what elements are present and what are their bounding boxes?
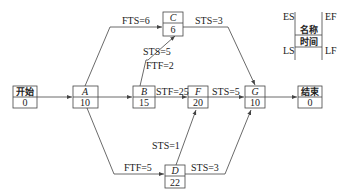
svg-text:15: 15 [139,97,149,108]
label-b-f: STF=25 [156,86,189,97]
svg-text:6: 6 [171,24,176,35]
svg-text:0: 0 [23,97,28,108]
svg-text:LS: LS [283,45,295,56]
node-start: 开始 0 [13,86,37,108]
node-g: G 10 [245,86,265,108]
svg-text:10: 10 [80,97,90,108]
svg-text:开始: 开始 [16,86,34,97]
label-d-f: STS=1 [152,140,180,151]
svg-text:结束: 结束 [301,86,320,97]
node-b: B 15 [133,86,155,108]
svg-text:B: B [141,86,147,97]
svg-text:A: A [81,86,89,97]
label-a-d: FTF=5 [124,162,152,173]
svg-text:C: C [170,12,177,23]
svg-text:22: 22 [170,177,180,188]
node-f: F 20 [188,86,208,108]
node-c: C 6 [163,12,183,36]
svg-text:LF: LF [325,45,337,56]
svg-text:EF: EF [325,11,337,22]
edge-d-f [176,110,196,165]
svg-text:0: 0 [308,97,313,108]
node-a: A 10 [73,86,98,108]
node-end: 结束 0 [298,86,322,108]
label-b-c-ftf: FTF=2 [146,60,174,71]
network-diagram: 开始 0 A 10 B 15 C 6 F 20 G 10 D 22 [0,0,342,195]
svg-text:ES: ES [283,11,295,22]
label-d-g: STS=3 [191,162,219,173]
svg-text:G: G [251,86,258,97]
label-a-c: FTS=6 [122,15,150,26]
node-d: D 22 [165,165,185,188]
svg-text:名称: 名称 [300,24,318,35]
svg-text:20: 20 [193,97,203,108]
label-b-c-sts: STS=5 [143,46,171,57]
svg-text:F: F [194,86,202,97]
legend: ES EF 名称 时间 LS LF [283,11,337,60]
label-f-g: STS=5 [212,86,240,97]
svg-text:10: 10 [250,97,260,108]
svg-text:D: D [170,165,179,176]
svg-text:时间: 时间 [300,36,318,47]
edge-c-g [183,27,255,85]
label-c-g: STS=3 [195,15,223,26]
